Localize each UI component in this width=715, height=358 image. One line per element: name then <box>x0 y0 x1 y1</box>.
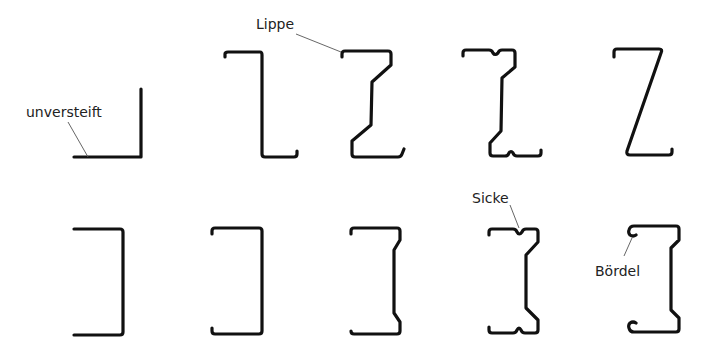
profile-c-unstiffened <box>74 229 123 335</box>
profile-z-lipped-web-stiffened <box>342 51 404 157</box>
profile-z-inclined <box>614 49 672 155</box>
profile-c-lipped-beaded <box>489 229 538 333</box>
label-sicke: Sicke <box>472 190 509 206</box>
leader-sicke <box>510 205 519 228</box>
leader-unversteift <box>68 122 88 157</box>
profile-c-bordel <box>629 226 679 332</box>
profile-z-lipped-beaded <box>463 50 541 156</box>
leader-boerdel <box>624 238 632 256</box>
profile-c-lipped-web-stiffened <box>351 228 400 334</box>
label-unversteift: unversteift <box>26 104 102 120</box>
label-lippe: Lippe <box>256 16 294 32</box>
leader-lippe <box>296 34 341 52</box>
profile-diagram: unversteift Lippe Sicke Bördel <box>0 0 715 358</box>
profile-angle-unstiffened <box>74 89 141 157</box>
profile-c-lipped <box>212 228 262 334</box>
label-boerdel: Bördel <box>595 263 640 279</box>
profile-z-lipped <box>225 52 297 157</box>
